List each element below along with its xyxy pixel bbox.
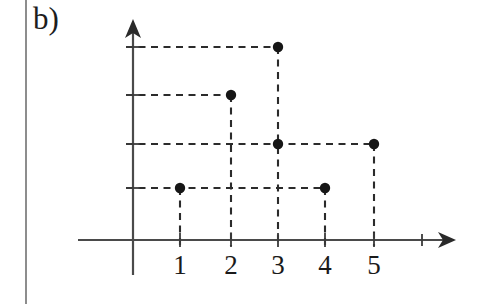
plot-canvas: 1 2 3 4 5 <box>0 0 484 304</box>
x-tick-labels: 1 2 3 4 5 <box>173 250 381 280</box>
x-tick-label: 2 <box>224 250 238 280</box>
data-point[interactable] <box>320 183 330 193</box>
x-tick-label: 5 <box>367 250 381 280</box>
data-point[interactable] <box>175 183 185 193</box>
x-tick-label: 4 <box>318 250 332 280</box>
x-tick-label: 3 <box>271 250 285 280</box>
data-point[interactable] <box>226 90 236 100</box>
guide-lines <box>126 47 374 188</box>
data-point[interactable] <box>273 42 283 52</box>
figure-panel: b) <box>0 0 484 304</box>
axis-lines <box>78 19 456 275</box>
data-point[interactable] <box>369 139 379 149</box>
data-point[interactable] <box>273 139 283 149</box>
x-tick-label: 1 <box>173 250 187 280</box>
